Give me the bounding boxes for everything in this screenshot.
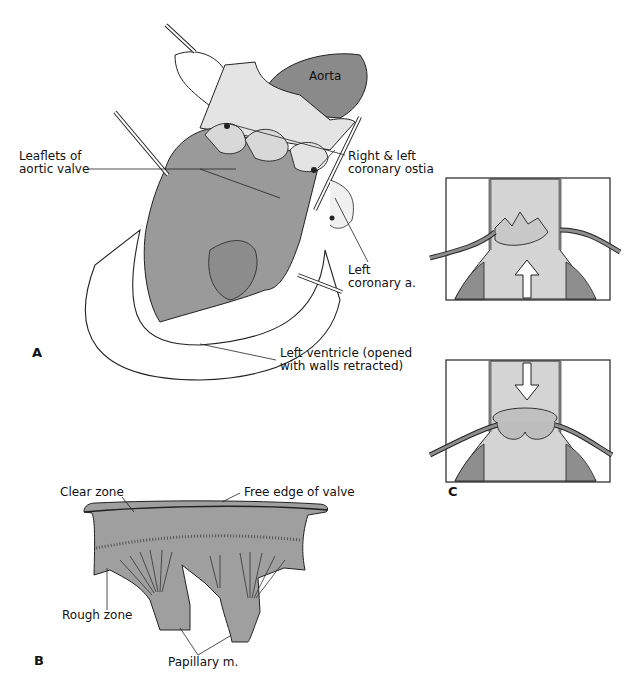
- panel-letter-b: B: [34, 653, 44, 668]
- label-clear-zone: Clear zone: [60, 486, 124, 499]
- label-aorta: Aorta: [309, 70, 341, 83]
- label-papillary: Papillary m.: [168, 656, 238, 669]
- label-ostia-line2: coronary ostia: [348, 163, 434, 176]
- label-rough-zone: Rough zone: [62, 609, 132, 622]
- figure-stage: Aorta Leaflets of aortic valve Right & l…: [0, 0, 636, 684]
- panel-letter-a: A: [32, 345, 42, 360]
- label-ventricle-line2: with walls retracted): [280, 360, 403, 373]
- panel-a-illustration: [0, 0, 636, 684]
- label-free-edge: Free edge of valve: [244, 486, 355, 499]
- label-leaflets-line2: aortic valve: [19, 163, 89, 176]
- panel-letter-c: C: [448, 484, 458, 499]
- label-left-coronary-line2: coronary a.: [348, 277, 416, 290]
